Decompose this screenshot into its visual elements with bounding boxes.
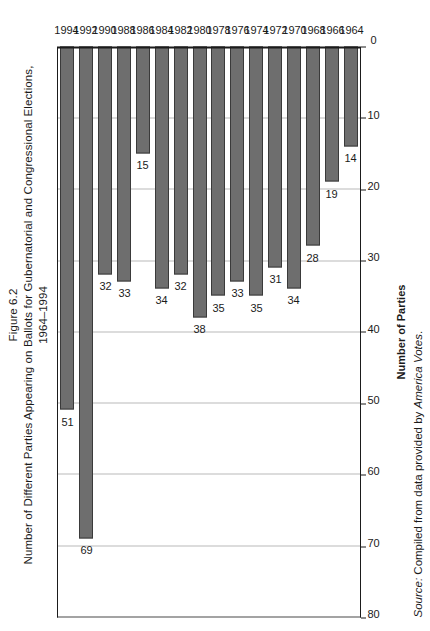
category-label-1964: 1964 [339, 24, 363, 35]
bar-1966 [325, 46, 339, 181]
tick-label-40: 40 [367, 323, 379, 334]
figure-container: Figure 6.2 Number of Different Parties A… [0, 0, 430, 631]
bar-value-label: 51 [61, 416, 73, 427]
bar-1964 [344, 46, 358, 146]
chart-area: 51693233153432383533353134281914 1994199… [55, 10, 407, 619]
tick-label-20: 20 [367, 180, 379, 191]
bar-row: 69 [79, 46, 93, 616]
tick-mark-40 [361, 332, 366, 333]
tick-label-10: 10 [367, 109, 379, 120]
bar-series: 51693233153432383533353134281914 [58, 46, 360, 616]
bar-row: 35 [211, 46, 225, 616]
bar-value-label: 38 [193, 323, 205, 334]
source-publication: America Votes [412, 334, 424, 408]
bar-value-label: 35 [212, 302, 224, 313]
tick-label-0: 0 [370, 35, 376, 46]
bar-value-label: 69 [80, 544, 92, 555]
tick-label-30: 30 [367, 252, 379, 263]
category-axis-labels: 1994199219901988198619841982198019781976… [57, 12, 361, 46]
bar-value-label: 32 [175, 281, 187, 292]
category-cell: 1968 [307, 12, 321, 46]
tick-mark-70 [361, 546, 366, 547]
bar-row: 14 [344, 46, 358, 616]
bar-row: 38 [193, 46, 207, 616]
scanned-page: Figure 6.2 Number of Different Parties A… [0, 0, 430, 631]
bar-1980 [193, 46, 207, 317]
tick-mark-30 [361, 260, 366, 261]
bar-row: 32 [98, 46, 112, 616]
tick-label-80: 80 [367, 609, 379, 620]
axis-title-strip: Number of Parties [391, 46, 407, 617]
category-axis: 1994199219901988198619841982198019781976… [57, 12, 361, 46]
bar-value-label: 33 [231, 288, 243, 299]
bar-1990 [98, 46, 112, 274]
category-cell: 1978 [212, 12, 226, 46]
bar-row: 15 [136, 46, 150, 616]
tick-mark-60 [361, 474, 366, 475]
category-cell: 1980 [193, 12, 207, 46]
bar-1988 [117, 46, 131, 281]
figure-number: Figure 6.2 [6, 10, 21, 619]
category-cell: 1970 [288, 12, 302, 46]
bar-1968 [306, 46, 320, 246]
source-note: Source: Compiled from data provided by A… [407, 10, 426, 619]
plot-row: 51693233153432383533353134281914 1994199… [57, 12, 361, 617]
bar-1974 [249, 46, 263, 295]
bar-value-label: 19 [326, 188, 338, 199]
category-cell: 1988 [117, 12, 131, 46]
bar-value-label: 32 [99, 281, 111, 292]
bar-row: 51 [60, 46, 74, 616]
source-period: . [412, 330, 424, 333]
bar-1992 [79, 46, 93, 538]
bar-row: 19 [325, 46, 339, 616]
tick-mark-80 [361, 617, 366, 618]
bar-value-label: 31 [269, 274, 281, 285]
axis-title-row: Number of Parties [391, 12, 407, 617]
bar-row: 28 [306, 46, 320, 616]
category-cell: 1974 [250, 12, 264, 46]
bar-row: 35 [249, 46, 263, 616]
tick-mark-10 [361, 117, 366, 118]
bar-value-label: 28 [307, 252, 319, 263]
bar-1984 [155, 46, 169, 288]
source-label: Source: [412, 577, 424, 617]
category-cell: 1992 [79, 12, 93, 46]
bar-row: 34 [155, 46, 169, 616]
tick-mark-50 [361, 403, 366, 404]
category-cell: 1966 [326, 12, 340, 46]
bar-value-label: 33 [118, 288, 130, 299]
bar-value-label: 34 [156, 295, 168, 306]
figure-title-block: Figure 6.2 Number of Different Parties A… [6, 10, 55, 619]
bar-1986 [136, 46, 150, 153]
bar-1970 [287, 46, 301, 288]
tick-mark-20 [361, 189, 366, 190]
bar-value-label: 35 [250, 302, 262, 313]
figure-title-years: 1964–1994 [36, 10, 51, 619]
rotated-figure: Figure 6.2 Number of Different Parties A… [0, 0, 430, 631]
bar-value-label: 34 [288, 295, 300, 306]
bar-1972 [268, 46, 282, 267]
value-axis-ticks: 01020304050607080 [361, 46, 391, 617]
bar-row: 34 [287, 46, 301, 616]
category-cell: 1984 [155, 12, 169, 46]
bar-1982 [174, 46, 188, 274]
bar-value-label: 14 [344, 152, 356, 163]
category-cell: 1976 [231, 12, 245, 46]
axis-title-spacer [391, 12, 407, 46]
bar-1994 [60, 46, 74, 409]
category-cell: 1990 [98, 12, 112, 46]
tick-label-70: 70 [367, 537, 379, 548]
category-cell: 1986 [136, 12, 150, 46]
bar-1978 [211, 46, 225, 295]
tick-label-60: 60 [367, 466, 379, 477]
bar-row: 33 [117, 46, 131, 616]
bar-row: 31 [268, 46, 282, 616]
category-cell: 1964 [345, 12, 359, 46]
source-text: Compiled from data provided by [412, 408, 424, 577]
bar-1976 [230, 46, 244, 281]
figure-title: Number of Different Parties Appearing on… [21, 10, 36, 619]
bar-row: 33 [230, 46, 244, 616]
category-cell: 1994 [60, 12, 74, 46]
tick-mark-0 [361, 46, 366, 47]
category-cell: 1972 [269, 12, 283, 46]
